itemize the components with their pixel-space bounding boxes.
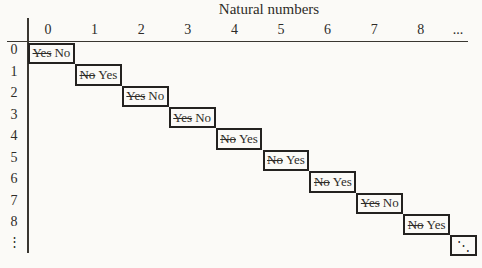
diagonal-cell-7: Yes No [356,193,403,214]
column-header-8: 8 [409,22,433,38]
kept-word: Yes [333,174,352,190]
struck-word: Yes [126,88,145,104]
struck-word: No [267,152,283,168]
kept-word: Yes [286,152,305,168]
diagonal-cell-1: No Yes [75,64,122,85]
column-header-7: 7 [362,22,386,38]
column-header-5: 5 [269,22,293,38]
struck-word: No [79,67,95,83]
diagram-title: Natural numbers [219,1,319,18]
column-axis-line [7,41,468,43]
row-header-6: 6 [4,171,24,187]
column-header-6: 6 [316,22,340,38]
cantor-diagonal-diagram: Natural numbers 0 1 2 3 4 5 6 7 8 ... 0 … [0,0,482,268]
struck-word: No [220,131,236,147]
kept-word: Yes [239,131,258,147]
diagonal-cell-4: No Yes [216,128,263,149]
kept-word: Yes [98,67,117,83]
column-header-2: 2 [129,22,153,38]
struck-word: No [408,217,424,233]
diagonal-ellipsis: ⋱ [457,238,470,254]
column-header-4: 4 [222,22,246,38]
diagonal-cell-5: No Yes [263,150,310,171]
diagonal-cell-8: No Yes [403,214,450,235]
row-header-8: 8 [4,214,24,230]
diagonal-cell-0: Yes No [28,43,75,64]
row-header-2: 2 [4,85,24,101]
struck-word: No [314,174,330,190]
diagonal-cell-3: Yes No [169,107,216,128]
kept-word: No [148,88,164,104]
kept-word: Yes [427,217,446,233]
row-header-vertical-ellipsis: ⋮ [4,234,24,250]
row-header-7: 7 [4,193,24,209]
row-header-4: 4 [4,128,24,144]
row-header-5: 5 [4,150,24,166]
row-header-1: 1 [4,64,24,80]
kept-word: No [383,195,399,211]
column-header-ellipsis: ... [446,22,470,38]
diagonal-cell-continuation: ⋱ [450,235,477,256]
struck-word: Yes [361,195,380,211]
row-header-3: 3 [4,107,24,123]
column-header-0: 0 [36,22,60,38]
diagonal-cell-6: No Yes [309,171,356,192]
diagonal-cell-2: Yes No [122,86,169,107]
column-header-1: 1 [83,22,107,38]
kept-word: No [195,110,211,126]
struck-word: Yes [33,45,52,61]
kept-word: No [54,45,70,61]
row-header-0: 0 [4,42,24,58]
column-header-3: 3 [176,22,200,38]
struck-word: Yes [173,110,192,126]
